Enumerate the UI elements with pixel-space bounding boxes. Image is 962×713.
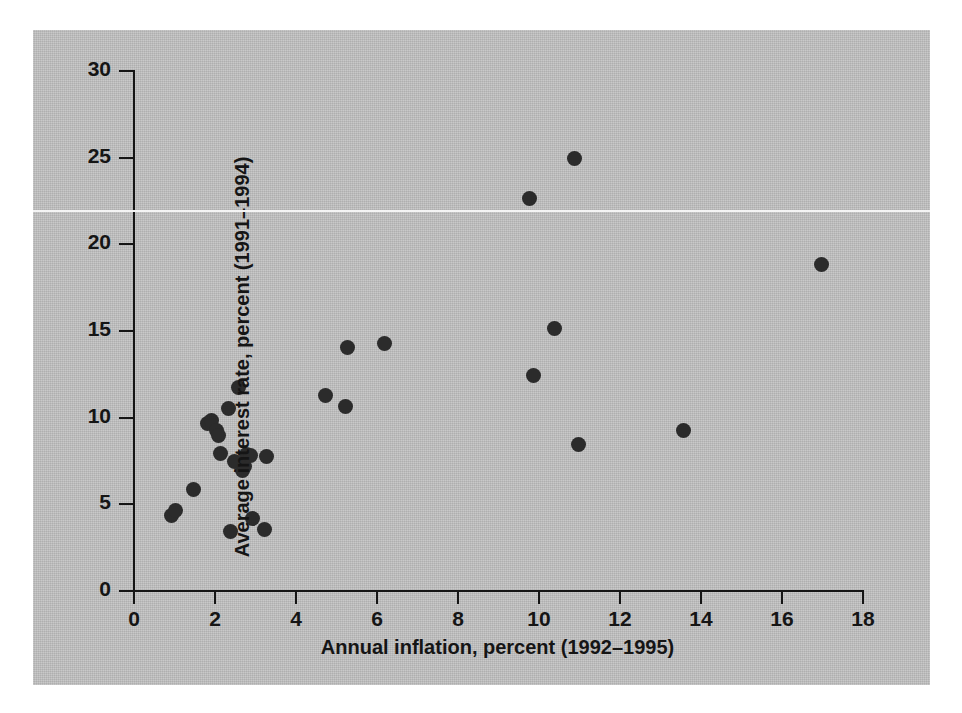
x-tick-label: 2 [209,608,221,630]
y-tick-label: 25 [88,146,111,166]
data-point [676,423,691,438]
x-tick: 18 [862,590,864,604]
data-point [318,388,333,403]
x-tick-label: 14 [689,608,712,630]
y-tick: 20 [119,243,134,245]
y-tick-label: 30 [88,59,111,79]
y-tick-label: 10 [88,406,111,426]
y-tick: 15 [119,330,134,332]
data-point [259,449,274,464]
data-point [168,503,183,518]
x-axis-line [133,590,862,592]
x-tick: 6 [376,590,378,604]
y-tick: 30 [119,70,134,72]
data-point [186,482,201,497]
scanline-artifact [33,210,930,212]
data-point [257,522,272,537]
x-tick: 16 [781,590,783,604]
y-axis-title: Average interest rate, percent (1991–199… [231,156,254,557]
data-point [522,191,537,206]
x-tick: 0 [133,590,135,604]
y-tick-label: 0 [99,579,111,599]
data-point [526,368,541,383]
x-axis-title: Annual inflation, percent (1992–1995) [133,636,862,659]
x-tick: 12 [619,590,621,604]
x-tick-label: 16 [770,608,793,630]
x-tick-label: 0 [128,608,140,630]
data-point [211,428,226,443]
data-point [814,257,829,272]
y-tick-label: 5 [99,492,111,512]
y-tick-label: 20 [88,232,111,252]
y-tick: 0 [119,590,134,592]
x-tick: 2 [214,590,216,604]
x-tick: 8 [457,590,459,604]
figure-scatter-inflation-interest: Average interest rate, percent (1991–199… [0,0,962,713]
x-tick-label: 12 [608,608,631,630]
data-point [571,437,586,452]
data-point [213,446,228,461]
data-point [547,321,562,336]
y-tick: 10 [119,417,134,419]
x-tick-label: 8 [452,608,464,630]
x-tick-label: 10 [527,608,550,630]
x-tick: 14 [700,590,702,604]
x-tick-label: 4 [290,608,302,630]
x-tick-label: 18 [851,608,874,630]
data-point [567,151,582,166]
x-tick: 4 [295,590,297,604]
data-point [377,336,392,351]
y-tick-label: 15 [88,319,111,339]
y-tick: 5 [119,503,134,505]
data-point [340,340,355,355]
x-tick-label: 6 [371,608,383,630]
y-tick: 25 [119,157,134,159]
data-point [338,399,353,414]
x-tick: 10 [538,590,540,604]
